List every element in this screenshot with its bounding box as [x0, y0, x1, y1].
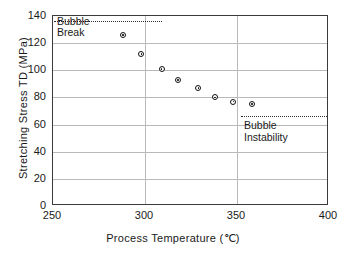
plot-area: BubbleBreak BubbleInstability	[52, 15, 328, 205]
data-point	[195, 85, 201, 91]
y-tick-100: 100	[28, 63, 46, 75]
bubble-instability-label: BubbleInstability	[244, 120, 288, 143]
bubble-break-label-line2: Break	[57, 26, 84, 38]
data-point	[212, 94, 218, 100]
y-tick-80: 80	[34, 90, 46, 102]
gridline-y-100	[53, 70, 327, 71]
gridline-y-80	[53, 97, 327, 98]
bubble-break-label: BubbleBreak	[57, 16, 90, 39]
y-tick-20: 20	[34, 172, 46, 184]
gridline-x-350	[237, 16, 238, 204]
data-point	[175, 77, 181, 83]
x-tick-400: 400	[319, 209, 337, 221]
gridline-y-20	[53, 179, 327, 180]
gridline-x-300	[145, 16, 146, 204]
bubble-instability-label-line1: Bubble	[244, 119, 277, 131]
gridline-y-40	[53, 152, 327, 153]
bubble-break-label-line1: Bubble	[57, 15, 90, 27]
y-tick-140: 140	[28, 9, 46, 21]
x-tick-250: 250	[43, 209, 61, 221]
data-point	[159, 66, 165, 72]
chart-figure: 140 120 100 80 60 40 20 0 250 300 350 40…	[0, 0, 346, 255]
x-axis-title: Process Temperature (℃)	[0, 232, 346, 245]
y-tick-60: 60	[34, 118, 46, 130]
data-point	[249, 101, 255, 107]
x-tick-350: 350	[227, 209, 245, 221]
y-axis-title: Stretching Stress TD (MPa)	[17, 8, 29, 208]
gridline-y-120	[53, 43, 327, 44]
bubble-instability-guide-line	[241, 116, 327, 117]
y-tick-120: 120	[28, 36, 46, 48]
data-point	[120, 32, 126, 38]
y-tick-40: 40	[34, 145, 46, 157]
x-tick-300: 300	[135, 209, 153, 221]
data-point	[138, 51, 144, 57]
bubble-instability-label-line2: Instability	[244, 131, 288, 143]
data-point	[230, 99, 236, 105]
